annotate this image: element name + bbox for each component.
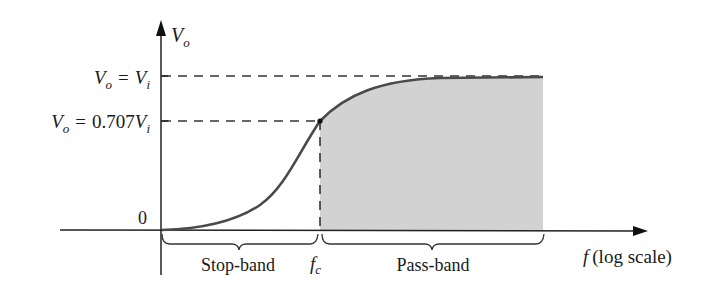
cutoff-point-marker xyxy=(317,118,322,123)
cutoff-frequency-label: fc xyxy=(310,253,321,277)
y-axis-label: Vo xyxy=(171,24,190,50)
x-axis-label: f(log scale) xyxy=(583,246,672,268)
max-level-label: Vo=Vi xyxy=(94,67,150,92)
pass-band-label: Pass-band xyxy=(397,255,470,275)
x-axis-arrow-icon xyxy=(633,226,648,236)
cutoff-level-label: Vo=0.707Vi xyxy=(51,111,150,136)
x-axis xyxy=(60,230,638,231)
pass-band-brace xyxy=(322,234,544,250)
high-pass-response-diagram: Vo Vo=Vi Vo=0.707Vi 0 fc Stop-band Pass-… xyxy=(0,0,727,285)
y-axis-arrow-icon xyxy=(156,20,166,36)
diagram-svg: Vo Vo=Vi Vo=0.707Vi 0 fc Stop-band Pass-… xyxy=(0,0,727,285)
zero-label: 0 xyxy=(138,208,147,228)
stop-band-brace xyxy=(162,234,318,250)
stop-band-label: Stop-band xyxy=(201,255,275,275)
pass-band-shading xyxy=(320,77,543,230)
